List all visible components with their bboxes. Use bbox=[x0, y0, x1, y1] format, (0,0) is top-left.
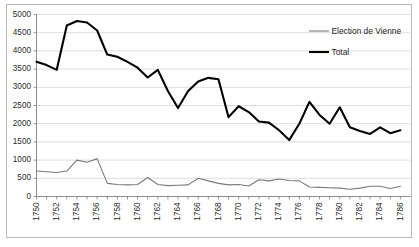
legend-label-2: Total bbox=[332, 47, 350, 57]
x-axis-tick-label: 1764 bbox=[173, 202, 182, 221]
y-axis-tick-label: 1500 bbox=[13, 137, 32, 146]
y-axis-tick-label: 500 bbox=[17, 173, 31, 182]
x-tick-labels: 1750175217541756175817601762176417661768… bbox=[32, 202, 405, 221]
y-axis-tick-label: 4000 bbox=[13, 46, 32, 55]
x-axis-tick-label: 1784 bbox=[375, 202, 384, 221]
series-line-election-de-vienne bbox=[37, 159, 401, 190]
x-axis-tick-label: 1762 bbox=[153, 202, 162, 221]
x-axis-tick-label: 1760 bbox=[133, 202, 142, 221]
y-axis-tick-label: 2000 bbox=[13, 119, 32, 128]
y-axis-tick-label: 4500 bbox=[13, 28, 32, 37]
x-axis-tick-label: 1772 bbox=[254, 202, 263, 221]
y-axis bbox=[34, 15, 37, 197]
chart-figure: 0500100015002000250030003500400045005000… bbox=[0, 0, 419, 247]
x-axis-tick-label: 1752 bbox=[52, 202, 61, 221]
x-axis-tick-label: 1768 bbox=[214, 202, 223, 221]
x-axis bbox=[37, 197, 411, 200]
x-axis-tick-label: 1750 bbox=[32, 202, 41, 221]
y-axis-tick-label: 0 bbox=[26, 192, 31, 201]
x-axis-tick-label: 1758 bbox=[113, 202, 122, 221]
chart-legend: Election de VienneTotal bbox=[309, 26, 402, 57]
y-axis-tick-label: 3500 bbox=[13, 64, 32, 73]
x-axis-tick-label: 1782 bbox=[355, 202, 364, 221]
y-axis-tick-label: 5000 bbox=[13, 10, 32, 19]
y-tick-labels: 0500100015002000250030003500400045005000 bbox=[13, 10, 32, 201]
x-axis-tick-label: 1756 bbox=[92, 202, 101, 221]
y-axis-tick-label: 2500 bbox=[13, 101, 32, 110]
x-axis-tick-label: 1776 bbox=[294, 202, 303, 221]
y-axis-tick-label: 1000 bbox=[13, 155, 32, 164]
y-axis-tick-label: 3000 bbox=[13, 82, 32, 91]
x-axis-tick-label: 1780 bbox=[335, 202, 344, 221]
x-axis-tick-label: 1786 bbox=[396, 202, 405, 221]
x-axis-tick-label: 1778 bbox=[315, 202, 324, 221]
series-line-total bbox=[37, 21, 401, 140]
x-axis-tick-label: 1766 bbox=[193, 202, 202, 221]
x-axis-tick-label: 1774 bbox=[274, 202, 283, 221]
x-axis-tick-label: 1754 bbox=[72, 202, 81, 221]
legend-label-1: Election de Vienne bbox=[332, 26, 402, 36]
x-axis-tick-label: 1770 bbox=[234, 202, 243, 221]
line-chart: 0500100015002000250030003500400045005000… bbox=[0, 0, 419, 247]
